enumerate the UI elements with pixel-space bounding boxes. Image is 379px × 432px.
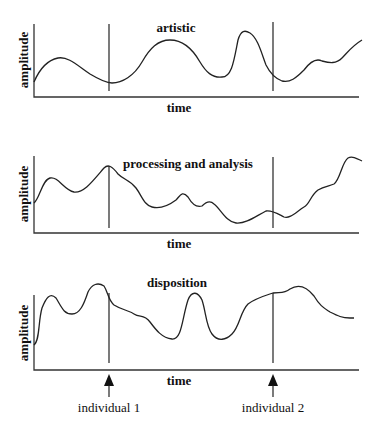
y-axis-label: amplitude xyxy=(16,166,31,223)
panel-title: processing and analysis xyxy=(123,156,253,171)
up-arrow-icon xyxy=(104,374,114,386)
panel-processing-and-analysis: processing and analysis time amplitude xyxy=(16,156,362,251)
axes xyxy=(34,24,359,97)
marker-individual-1: individual 1 xyxy=(78,374,140,415)
up-arrow-icon xyxy=(268,374,278,386)
x-axis-label: time xyxy=(167,236,192,251)
individual-1-label: individual 1 xyxy=(78,400,140,415)
panel-title: artistic xyxy=(157,20,196,35)
individual-2-label: individual 2 xyxy=(242,400,304,415)
panel-disposition: disposition time amplitude xyxy=(16,275,359,388)
y-axis-label: amplitude xyxy=(16,305,31,362)
y-axis-label: amplitude xyxy=(16,32,31,89)
panel-artistic: artistic time amplitude xyxy=(16,20,362,115)
amplitude-curve xyxy=(34,31,362,83)
panel-title: disposition xyxy=(147,275,208,290)
three-panel-amplitude-diagram: artistic time amplitude processing and a… xyxy=(0,0,379,432)
amplitude-curve xyxy=(34,284,354,345)
x-axis-label: time xyxy=(167,100,192,115)
marker-individual-2: individual 2 xyxy=(242,374,304,415)
x-axis-label: time xyxy=(167,373,192,388)
